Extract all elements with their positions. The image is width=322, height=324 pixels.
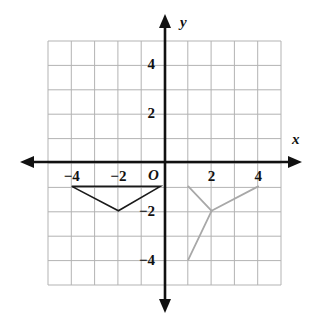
coordinate-plane-svg: −4−22442−2−4 x y O — [0, 0, 322, 324]
y-tick-label: −4 — [139, 252, 156, 268]
shape-image-figure-segment — [188, 211, 211, 260]
x-axis-right-arrow-icon — [288, 156, 302, 168]
shape-image-figure-segment — [188, 186, 211, 210]
y-tick-label: 2 — [148, 105, 156, 121]
x-tick-label: −2 — [110, 168, 126, 184]
x-tick-label: −4 — [64, 168, 81, 184]
y-tick-label: 4 — [148, 56, 156, 72]
coordinate-plane-figure: −4−22442−2−4 x y O — [0, 0, 322, 324]
y-axis-down-arrow-icon — [159, 299, 171, 313]
shape-image-figure-segment — [212, 186, 259, 210]
x-tick-label: 4 — [254, 168, 262, 184]
origin-label: O — [148, 167, 159, 183]
y-axis-up-arrow-icon — [159, 14, 171, 28]
x-axis-label: x — [291, 131, 300, 147]
x-tick-label: 2 — [208, 168, 216, 184]
y-tick-label: −2 — [139, 203, 155, 219]
y-axis-label: y — [178, 14, 187, 30]
x-axis-left-arrow-icon — [20, 156, 34, 168]
